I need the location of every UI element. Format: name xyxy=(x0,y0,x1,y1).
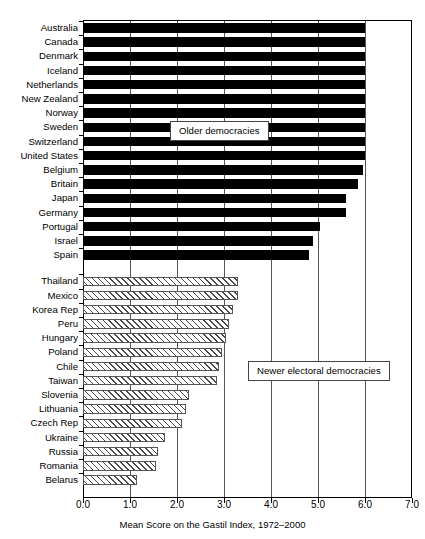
bar-row: Norway xyxy=(0,106,425,120)
bar xyxy=(83,277,238,286)
category-label: Chile xyxy=(0,360,78,374)
bar xyxy=(83,94,365,103)
bar-row: Hungary xyxy=(0,331,425,345)
bar xyxy=(83,23,365,32)
bar xyxy=(83,461,156,470)
bar xyxy=(83,208,346,217)
bar xyxy=(83,66,365,75)
y-tick-mark xyxy=(79,206,83,207)
category-label: Lithuania xyxy=(0,402,78,416)
top-caption xyxy=(8,0,158,9)
category-label: Peru xyxy=(0,317,78,331)
bar xyxy=(83,433,165,442)
bar xyxy=(83,362,219,371)
bar-row: Czech Rep xyxy=(0,416,425,430)
bar-row: Denmark xyxy=(0,49,425,63)
x-tick-label: 1.0 xyxy=(110,499,150,511)
bar-row: Belgium xyxy=(0,163,425,177)
bar-row: Ukraine xyxy=(0,431,425,445)
category-label: Switzerland xyxy=(0,135,78,149)
category-label: Hungary xyxy=(0,331,78,345)
bar xyxy=(83,151,365,160)
y-tick-mark xyxy=(79,360,83,361)
annotation-newer-democracies: Newer electoral democracies xyxy=(248,361,390,381)
bar-row: Netherlands xyxy=(0,78,425,92)
y-tick-mark xyxy=(79,459,83,460)
category-label: Spain xyxy=(0,248,78,262)
category-label: Sweden xyxy=(0,120,78,134)
category-label: Portugal xyxy=(0,220,78,234)
category-label: Israel xyxy=(0,234,78,248)
category-label: Russia xyxy=(0,445,78,459)
category-label: Germany xyxy=(0,206,78,220)
bar xyxy=(83,376,217,385)
bar-row: Mexico xyxy=(0,289,425,303)
y-tick-mark xyxy=(79,220,83,221)
category-label: Denmark xyxy=(0,49,78,63)
bar xyxy=(83,37,365,46)
bar xyxy=(83,447,158,456)
y-tick-mark xyxy=(79,374,83,375)
x-axis-tick-labels: 0.01.02.03.04.05.06.07.0 xyxy=(0,499,425,515)
bar xyxy=(83,194,346,203)
category-label: Ukraine xyxy=(0,431,78,445)
category-label: Taiwan xyxy=(0,374,78,388)
x-tick-label: 4.0 xyxy=(251,499,291,511)
bar-row: Spain xyxy=(0,248,425,262)
y-tick-mark xyxy=(79,21,83,22)
bar-row: Korea Rep xyxy=(0,303,425,317)
category-label: Norway xyxy=(0,106,78,120)
category-label: Poland xyxy=(0,345,78,359)
category-label: New Zealand xyxy=(0,92,78,106)
category-label: Australia xyxy=(0,21,78,35)
bar-row: Britain xyxy=(0,177,425,191)
y-tick-mark xyxy=(79,445,83,446)
category-label: Mexico xyxy=(0,289,78,303)
category-label: Romania xyxy=(0,459,78,473)
bar-row: Slovenia xyxy=(0,388,425,402)
category-label: Slovenia xyxy=(0,388,78,402)
bar-row: Canada xyxy=(0,35,425,49)
bar xyxy=(83,348,222,357)
bar-row: Portugal xyxy=(0,220,425,234)
y-tick-mark xyxy=(79,303,83,304)
category-label: United States xyxy=(0,149,78,163)
y-tick-mark xyxy=(79,191,83,192)
y-tick-mark xyxy=(79,78,83,79)
bar-row: Poland xyxy=(0,345,425,359)
category-label: Britain xyxy=(0,177,78,191)
y-tick-mark xyxy=(79,416,83,417)
annotation-older-democracies: Older democracies xyxy=(170,121,269,141)
y-tick-mark xyxy=(79,120,83,121)
y-tick-mark xyxy=(79,274,83,275)
bar-row: Romania xyxy=(0,459,425,473)
y-tick-mark xyxy=(79,317,83,318)
bar-row: Israel xyxy=(0,234,425,248)
bar xyxy=(83,291,238,300)
bar-row: New Zealand xyxy=(0,92,425,106)
bar-row: Iceland xyxy=(0,64,425,78)
bar-row: Germany xyxy=(0,206,425,220)
y-tick-mark xyxy=(79,92,83,93)
y-tick-mark xyxy=(79,331,83,332)
bar xyxy=(83,108,365,117)
x-tick-label: 6.0 xyxy=(345,499,385,511)
chart-figure: AustraliaCanadaDenmarkIcelandNetherlands… xyxy=(0,0,425,539)
y-tick-mark xyxy=(79,49,83,50)
category-label: Belgium xyxy=(0,163,78,177)
bar-row: Thailand xyxy=(0,274,425,288)
x-axis-label: Mean Score on the Gastil Index, 1972–200… xyxy=(0,518,425,532)
bar xyxy=(83,475,137,484)
y-tick-mark xyxy=(79,177,83,178)
bar xyxy=(83,404,186,413)
category-label: Netherlands xyxy=(0,78,78,92)
bar-row: United States xyxy=(0,149,425,163)
bar-row: Japan xyxy=(0,191,425,205)
y-tick-mark xyxy=(79,163,83,164)
y-tick-mark xyxy=(79,64,83,65)
x-tick-label: 7.0 xyxy=(392,499,425,511)
y-tick-mark xyxy=(79,35,83,36)
category-label: Iceland xyxy=(0,64,78,78)
y-tick-mark xyxy=(79,106,83,107)
y-tick-mark xyxy=(79,289,83,290)
